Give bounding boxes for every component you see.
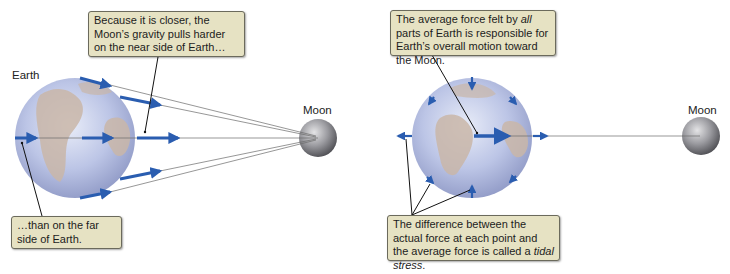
right-moon-label: Moon bbox=[688, 104, 717, 116]
tidal-stress-callout: The difference between the actual force … bbox=[387, 215, 560, 261]
tidal-force-diagram: Earth Moon Moon Because it is closer, th… bbox=[0, 0, 730, 274]
earth-label: Earth bbox=[12, 69, 40, 81]
far-side-callout-text: …than on the far side of Earth. bbox=[17, 219, 99, 245]
tidal-stress-text-1: The difference between the actual force … bbox=[393, 218, 537, 257]
average-force-text-italic: all bbox=[521, 13, 532, 25]
far-side-callout: …than on the far side of Earth. bbox=[11, 216, 122, 249]
average-force-text-1: The average force felt by bbox=[396, 13, 521, 25]
average-force-callout: The average force felt by all parts of E… bbox=[390, 10, 556, 56]
tidal-stress-text-2: . bbox=[422, 259, 425, 271]
near-side-callout-text: Because it is closer, the Moon’s gravity… bbox=[94, 14, 225, 53]
near-side-callout: Because it is closer, the Moon’s gravity… bbox=[88, 11, 245, 57]
left-moon-label: Moon bbox=[303, 104, 332, 116]
